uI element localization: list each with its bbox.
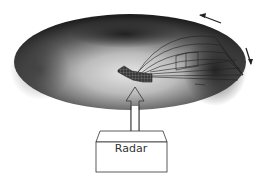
rotation-arrow-top bbox=[199, 13, 221, 23]
ellipsoid-volume bbox=[10, 14, 247, 110]
rotation-arrow-right bbox=[246, 48, 253, 65]
radar-label: Radar bbox=[96, 142, 166, 155]
